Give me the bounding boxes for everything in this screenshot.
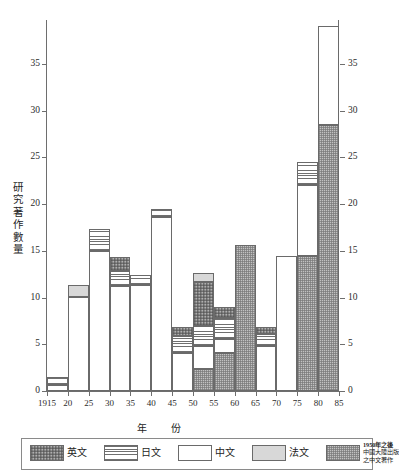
legend-swatch-en <box>30 445 64 461</box>
bar-segment-jp <box>297 162 318 185</box>
legend-label-line: 1950年之後 <box>363 441 399 448</box>
x-tick <box>89 392 90 396</box>
legend-label-en: 英文 <box>67 446 87 460</box>
x-tick <box>130 392 131 396</box>
x-tick-label: 65 <box>251 399 260 408</box>
bar-segment-fr <box>68 285 89 296</box>
bar-1915-20 <box>47 22 68 391</box>
y-tick-right <box>340 111 345 112</box>
y-tick-right <box>340 157 345 158</box>
y-axis-title-char: 著 <box>11 207 24 219</box>
bar-segment-zh <box>47 385 68 391</box>
y-axis-title-char: 數 <box>11 232 24 244</box>
x-tick-label: 70 <box>272 399 281 408</box>
legend-label-zh: 中文 <box>215 446 235 460</box>
legend-label-fr: 法文 <box>289 446 309 460</box>
bar-segment-prc <box>193 369 214 391</box>
y-tick-right <box>340 298 345 299</box>
bar-segment-en <box>193 282 214 326</box>
bar-segment-jp <box>130 275 151 285</box>
x-tick <box>214 392 215 396</box>
x-tick-label: 40 <box>147 399 156 408</box>
bar-segment-zh <box>68 297 89 391</box>
bar-segment-zh <box>214 339 235 353</box>
bar-segment-zh <box>256 346 277 391</box>
x-tick <box>47 392 48 396</box>
bar-50-55 <box>193 22 214 391</box>
bar-20-25 <box>68 22 89 391</box>
bar-segment-prc <box>235 245 256 391</box>
bar-60-65 <box>235 22 256 391</box>
bar-segment-zh <box>297 185 318 255</box>
bar-segment-en <box>110 257 131 271</box>
x-tick <box>68 392 69 396</box>
x-axis-title: 年 份 <box>137 420 188 435</box>
bar-70-75 <box>276 22 297 391</box>
bar-35-40 <box>130 22 151 391</box>
x-tick-label: 1915 <box>38 399 56 408</box>
bar-segment-en <box>214 307 235 318</box>
x-tick <box>110 392 111 396</box>
y-tick-label-left: 20 <box>20 199 40 209</box>
y-tick-label-left: 25 <box>20 152 40 162</box>
x-tick-label: 60 <box>230 399 239 408</box>
bar-segment-zh <box>89 251 110 391</box>
bar-55-60 <box>214 22 235 391</box>
x-tick <box>297 392 298 396</box>
y-tick-label-right: 30 <box>348 106 370 116</box>
y-tick-label-left: 0 <box>20 386 40 396</box>
legend-swatch-zh <box>178 445 212 461</box>
bar-segment-zh <box>172 353 193 391</box>
legend-swatch-jp <box>104 445 138 461</box>
y-tick-right <box>340 64 345 65</box>
y-tick-right <box>340 391 345 392</box>
plot-area <box>47 22 339 391</box>
legend-label-prc: 1950年之後中國大陸出版之中文著作 <box>363 441 399 463</box>
bar-segment-en <box>172 327 193 335</box>
y-tick-label-right: 35 <box>348 59 370 69</box>
bar-segment-jp <box>110 271 131 286</box>
x-tick-label: 50 <box>189 399 198 408</box>
x-tick-label: 75 <box>293 399 302 408</box>
y-axis-title-char: 作 <box>11 219 24 231</box>
x-tick-label: 55 <box>209 399 218 408</box>
bar-segment-jp <box>89 229 110 250</box>
bar-65-70 <box>256 22 277 391</box>
bar-40-45 <box>151 22 172 391</box>
y-tick-label-left: 15 <box>20 246 40 256</box>
bar-segment-jp <box>214 318 235 339</box>
y-tick-right <box>340 344 345 345</box>
bar-80-85 <box>318 22 339 391</box>
x-tick <box>151 392 152 396</box>
y-tick-label-right: 15 <box>348 246 370 256</box>
y-tick-label-left: 5 <box>20 339 40 349</box>
x-tick-label: 25 <box>84 399 93 408</box>
x-tick <box>193 392 194 396</box>
bar-45-50 <box>172 22 193 391</box>
bar-segment-prc <box>318 125 339 391</box>
x-tick-label: 45 <box>168 399 177 408</box>
x-tick-label: 30 <box>105 399 114 408</box>
y-tick-label-left: 10 <box>20 293 40 303</box>
bar-25-30 <box>89 22 110 391</box>
y-tick-label-left: 30 <box>20 106 40 116</box>
x-tick-label: 85 <box>335 399 344 408</box>
legend-label-jp: 日文 <box>141 446 161 460</box>
y-tick-label-right: 25 <box>348 152 370 162</box>
y-tick-label-right: 5 <box>348 339 370 349</box>
bar-segment-zh <box>276 256 297 391</box>
x-tick <box>339 392 340 396</box>
legend-label-line: 中國大陸出版 <box>363 448 399 455</box>
x-tick-label: 35 <box>126 399 135 408</box>
y-axis-title-char: 研 <box>11 182 24 194</box>
x-tick <box>235 392 236 396</box>
y-tick-label-right: 0 <box>348 386 370 396</box>
x-tick <box>276 392 277 396</box>
y-tick-right <box>340 251 345 252</box>
y-tick-label-right: 20 <box>348 199 370 209</box>
x-tick-label: 20 <box>63 399 72 408</box>
bar-segment-jp <box>256 334 277 346</box>
bar-75-80 <box>297 22 318 391</box>
bar-segment-jp <box>193 326 214 347</box>
bar-30-35 <box>110 22 131 391</box>
